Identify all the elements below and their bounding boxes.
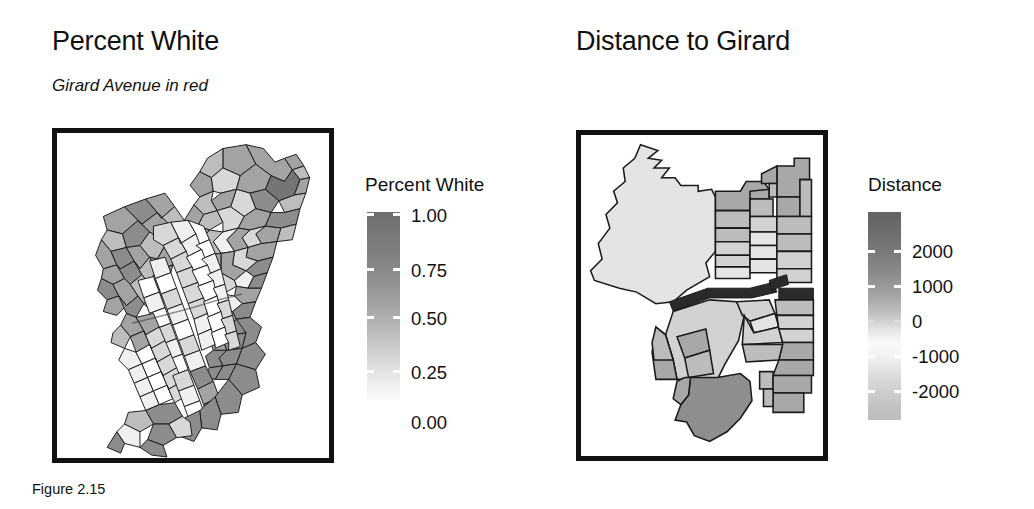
distance-tick-neg1000-right	[894, 355, 901, 358]
distance-colorbar	[868, 212, 901, 420]
colorbar-label-075: 0.75	[411, 262, 447, 281]
percent-white-legend-title: Percent White	[365, 174, 484, 196]
distance-legend-title: Distance	[868, 174, 942, 196]
colorbar-label-1: 1.00	[411, 207, 447, 226]
left-panel-title: Percent White	[52, 26, 219, 57]
distance-label-2000: 2000	[912, 243, 953, 262]
percent-white-map: .e0 { fill:#ffffff; } .e1 { fill:#f0f0f0…	[52, 128, 334, 463]
colorbar-tick-1	[367, 213, 374, 216]
philadelphia-tracts	[96, 145, 310, 457]
distance-to-girard-map: .d0 { fill:#ffffff; } .d1 { fill:#f2f2f2…	[576, 130, 828, 461]
percent-white-map-graphic: .e0 { fill:#ffffff; } .e1 { fill:#f0f0f0…	[57, 133, 329, 458]
colorbar-tick-1-right	[393, 213, 400, 216]
distance-to-girard-map-graphic: .d0 { fill:#ffffff; } .d1 { fill:#f2f2f2…	[581, 135, 823, 456]
distance-legend: 2000 1000 0 -1000 -2000	[868, 212, 1018, 442]
percent-white-legend: 1.00 0.75 0.50 0.25 0.00	[367, 212, 517, 442]
right-panel-title: Distance to Girard	[576, 26, 790, 57]
left-panel-subtitle: Girard Avenue in red	[52, 76, 208, 96]
distance-tick-2000	[868, 250, 875, 253]
colorbar-tick-075-right	[393, 268, 400, 271]
colorbar-label-025: 0.25	[411, 364, 447, 383]
distance-tick-1000-right	[894, 285, 901, 288]
distance-tick-1000	[868, 285, 875, 288]
distance-tick-neg2000-right	[894, 390, 901, 393]
colorbar-tick-050	[367, 316, 374, 319]
distance-tick-0-right	[894, 320, 901, 323]
colorbar-tick-025-right	[393, 370, 400, 373]
distance-tick-0	[868, 320, 875, 323]
colorbar-tick-075	[367, 268, 374, 271]
colorbar-tick-025	[367, 370, 374, 373]
colorbar-label-050: 0.50	[411, 310, 447, 329]
figure-caption: Figure 2.15	[32, 481, 105, 497]
distance-tick-2000-right	[894, 250, 901, 253]
distance-label-0: 0	[912, 313, 922, 332]
colorbar-tick-050-right	[393, 316, 400, 319]
distance-label-neg2000: -2000	[912, 383, 959, 402]
distance-label-neg1000: -1000	[912, 348, 959, 367]
distance-label-1000: 1000	[912, 278, 953, 297]
colorbar-label-000: 0.00	[411, 414, 447, 433]
distance-tick-neg2000	[868, 390, 875, 393]
distance-polygons	[591, 145, 814, 442]
distance-tick-neg1000	[868, 355, 875, 358]
